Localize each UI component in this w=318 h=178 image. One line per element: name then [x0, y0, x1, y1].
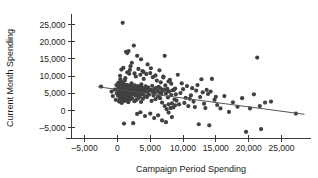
data-point — [139, 57, 143, 61]
data-point — [210, 77, 214, 81]
y-axis-group: –5,00005,00010,00015,00020,00025,000 Cur… — [5, 14, 75, 138]
data-point — [148, 112, 152, 116]
data-point — [240, 96, 244, 100]
data-point — [218, 106, 222, 110]
x-tick-label: 0 — [115, 143, 120, 153]
x-tick-labels: –5,00005,00010,00015,00020,00025,000 — [72, 143, 295, 153]
data-point — [177, 102, 181, 106]
data-point — [194, 88, 198, 92]
data-point — [161, 74, 165, 78]
data-point — [130, 61, 134, 65]
data-point — [167, 110, 171, 114]
data-point — [139, 82, 143, 86]
data-point — [181, 87, 185, 91]
data-point — [165, 88, 169, 92]
data-point — [159, 80, 163, 84]
data-point — [122, 121, 126, 125]
scatter-chart: –5,00005,00010,00015,00020,00025,000 Cur… — [0, 0, 318, 178]
data-point — [136, 67, 140, 71]
data-point — [167, 79, 171, 83]
data-point — [149, 99, 153, 103]
data-point — [180, 81, 184, 85]
data-point — [195, 83, 199, 87]
x-axis-group: –5,00005,00010,00015,00020,00025,000 Cam… — [66, 135, 312, 175]
chart-canvas: –5,00005,00010,00015,00020,00025,000 Cur… — [0, 0, 318, 178]
data-point — [134, 74, 138, 78]
data-point — [152, 116, 156, 120]
data-point — [231, 100, 235, 104]
data-point — [163, 54, 167, 58]
data-point — [174, 98, 178, 102]
data-point — [143, 114, 147, 118]
data-point — [131, 121, 135, 125]
data-point — [185, 84, 189, 88]
x-tick-label: 25,000 — [268, 143, 294, 153]
data-point — [146, 62, 150, 66]
y-tick-label: 5,000 — [44, 88, 66, 98]
data-point — [259, 127, 263, 131]
data-point — [158, 96, 162, 100]
data-point — [207, 123, 211, 127]
data-point — [111, 94, 115, 98]
y-tick-label: 0 — [61, 106, 66, 116]
data-point — [201, 90, 205, 94]
y-tick-label: –5,000 — [40, 123, 66, 133]
y-tick-label: 20,000 — [40, 37, 66, 47]
data-point — [215, 103, 219, 107]
y-tick-label: 10,000 — [40, 71, 66, 81]
data-point — [144, 72, 148, 76]
data-point — [160, 118, 164, 122]
data-point — [149, 66, 153, 70]
y-tick-labels: –5,00005,00010,00015,00020,00025,000 — [40, 20, 66, 133]
data-point — [269, 99, 273, 103]
y-tick-label: 25,000 — [40, 20, 66, 30]
data-point — [160, 101, 164, 105]
data-point — [142, 77, 146, 81]
data-point — [182, 101, 186, 105]
data-point — [197, 122, 201, 126]
data-point — [118, 74, 122, 78]
x-tick-label: –5,000 — [72, 143, 98, 153]
data-point — [258, 104, 262, 108]
data-point — [140, 69, 144, 73]
data-point — [126, 49, 130, 53]
data-point — [174, 92, 178, 96]
data-point — [155, 79, 159, 83]
data-point — [121, 21, 125, 25]
x-tick-label: 20,000 — [236, 143, 262, 153]
data-point — [156, 113, 160, 117]
data-point — [227, 110, 231, 114]
data-point — [214, 95, 218, 99]
data-point — [263, 101, 267, 105]
data-point — [178, 91, 182, 95]
data-point — [135, 54, 139, 58]
data-point — [170, 115, 174, 119]
data-point — [176, 73, 180, 77]
data-point — [193, 105, 197, 109]
data-point — [132, 43, 136, 47]
x-tick-label: 10,000 — [170, 143, 196, 153]
data-point — [151, 75, 155, 79]
data-point — [164, 120, 168, 124]
data-point — [255, 55, 259, 59]
data-point — [198, 95, 202, 99]
data-point — [123, 76, 127, 80]
data-point — [199, 77, 203, 81]
data-point — [222, 94, 226, 98]
data-point — [209, 90, 213, 94]
y-axis-title: Current Month Spending — [5, 29, 15, 127]
data-point — [127, 72, 131, 76]
x-tick-label: 15,000 — [203, 143, 229, 153]
x-axis-title: Campaign Period Spending — [136, 164, 246, 174]
data-point — [138, 110, 142, 114]
data-point — [148, 71, 152, 75]
data-point — [121, 66, 125, 70]
data-point — [203, 106, 207, 110]
data-point — [190, 86, 194, 90]
y-tick-label: 15,000 — [40, 54, 66, 64]
x-tick-label: 5,000 — [140, 143, 162, 153]
data-point — [157, 68, 161, 72]
data-point — [202, 102, 206, 106]
data-points-group — [99, 21, 298, 134]
data-point — [138, 73, 142, 77]
